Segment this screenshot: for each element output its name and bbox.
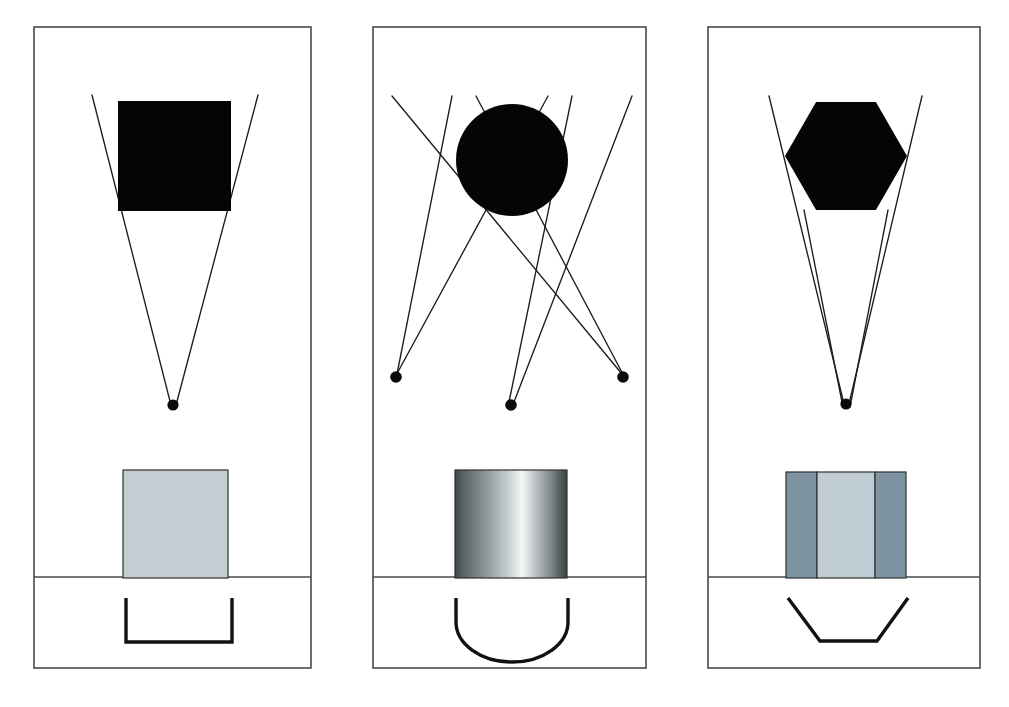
prism-band-center — [817, 472, 875, 578]
panel-a — [34, 27, 311, 668]
prism-band-left — [786, 472, 817, 578]
black-square-aperture — [118, 101, 231, 211]
focus-dot-left — [390, 371, 402, 383]
three-band-prism-element — [786, 472, 906, 578]
panel-c — [708, 27, 980, 668]
focus-dot-right — [617, 371, 629, 383]
figure-root — [0, 0, 1009, 707]
three-panel-figure-canvas — [0, 0, 1009, 707]
flat-plate-element — [123, 470, 228, 578]
black-circle-aperture — [456, 104, 568, 216]
cylindrical-lens-element — [455, 470, 567, 578]
focus-dot-center — [505, 399, 517, 411]
prism-band-right — [875, 472, 906, 578]
panel-b — [373, 27, 646, 668]
focus-dot — [840, 398, 851, 409]
focus-dot — [167, 399, 178, 410]
